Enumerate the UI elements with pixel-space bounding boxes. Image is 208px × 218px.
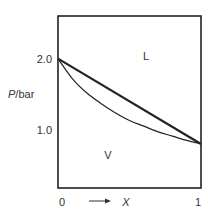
phase-diagram: 2.0 1.0 P/bar 0 1 X L V <box>0 0 208 218</box>
x-arrow-icon <box>89 199 111 204</box>
x-tick-label-0: 0 <box>59 196 65 208</box>
y-tick-label-2: 2.0 <box>37 53 52 65</box>
liquid-line <box>58 59 201 144</box>
x-axis-label: X <box>121 196 130 208</box>
y-tick-label-1: 1.0 <box>37 124 52 136</box>
x-tick-label-1: 1 <box>195 196 201 208</box>
y-axis-label: P/bar <box>8 88 35 100</box>
region-label-vapour: V <box>104 149 112 161</box>
region-label-liquid: L <box>143 50 149 62</box>
